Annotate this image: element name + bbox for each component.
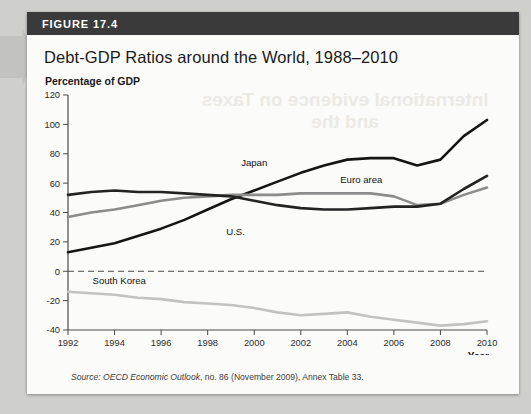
series-line-south-korea	[68, 292, 487, 326]
series-line-japan	[68, 120, 487, 252]
figure-number-label: FIGURE 17.4	[27, 18, 118, 30]
x-tick-label: 1996	[151, 338, 172, 348]
chart-unit-label: Percentage of GDP	[27, 67, 519, 87]
y-tick-label: -40	[47, 325, 60, 335]
y-tick-label: 100	[44, 120, 60, 130]
x-tick-label: 1992	[58, 338, 79, 348]
y-tick-label: 120	[44, 90, 60, 100]
x-tick-label: 1994	[104, 338, 125, 348]
line-chart: 120100806040200-20-40 199219941996199820…	[27, 87, 519, 355]
figure-header-bar: FIGURE 17.4	[27, 12, 519, 35]
y-tick-label: 0	[55, 267, 60, 277]
x-tick-label: 1998	[197, 338, 218, 348]
y-tick-label: -20	[47, 296, 60, 306]
figure-title: Debt-GDP Ratios around the World, 1988–2…	[27, 35, 519, 67]
source-detail: , no. 86 (November 2009), Annex Table 33…	[200, 372, 364, 382]
series-label-south-korea: South Korea	[93, 275, 147, 286]
series-label-u-s-: U.S.	[226, 226, 245, 237]
x-tick-label: 2006	[384, 338, 405, 348]
y-axis-tick-group: 120100806040200-20-40	[44, 90, 68, 335]
series-label-euro-area: Euro area	[340, 174, 383, 185]
x-axis-title: Year	[468, 351, 489, 355]
y-tick-label: 60	[50, 179, 60, 189]
chart-area: International evidence on Taxes and the …	[27, 87, 519, 355]
source-publication: OECD Economic Outlook	[103, 372, 200, 382]
series-group	[68, 120, 487, 326]
x-axis-tick-group: 1992199419961998200020022004200620082010	[58, 330, 498, 348]
x-tick-label: 2010	[477, 338, 498, 348]
series-label-group: JapanEuro areaU.S.South Korea	[93, 157, 383, 287]
x-tick-label: 2000	[244, 338, 265, 348]
series-label-japan: Japan	[241, 157, 267, 168]
y-tick-label: 80	[50, 149, 60, 159]
y-tick-label: 40	[50, 208, 60, 218]
y-tick-label: 20	[50, 237, 60, 247]
figure-card: FIGURE 17.4 Debt-GDP Ratios around the W…	[27, 12, 519, 394]
x-tick-label: 2008	[430, 338, 451, 348]
source-prefix: Source:	[71, 372, 103, 382]
x-tick-label: 2002	[290, 338, 311, 348]
x-tick-label: 2004	[337, 338, 358, 348]
source-note: Source: OECD Economic Outlook, no. 86 (N…	[71, 372, 364, 382]
